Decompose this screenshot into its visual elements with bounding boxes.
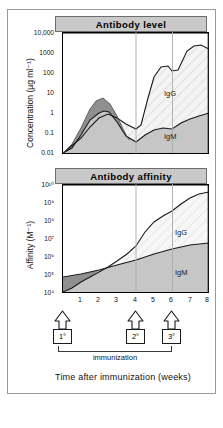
antibody-affinity-y-axis-label: Affinity (M⁻¹) — [25, 197, 35, 293]
immunization-secondary-text: 2° — [132, 332, 139, 341]
xtick-week-4: 4 — [130, 296, 140, 304]
ytick-level-0.01: 0.01 — [16, 149, 54, 156]
xticks-affinity — [63, 292, 208, 293]
ytick-affinity-1e5: 10⁵ — [16, 271, 54, 278]
ytick-affinity-1e7: 10⁷ — [16, 235, 54, 242]
antibody-response-figure: Antibody level Concentration (µg ml⁻¹) 1… — [0, 0, 223, 428]
figure-frame: Antibody level Concentration (µg ml⁻¹) 1… — [7, 9, 216, 394]
xtick-week-7: 7 — [185, 296, 195, 304]
igg-affinity-series-label: IgG — [175, 228, 187, 237]
ytick-level-100: 100 — [16, 69, 54, 76]
up-arrow-icon — [162, 310, 181, 330]
xtick-week-1: 1 — [75, 296, 85, 304]
antibody-level-y-axis-label: Concentration (µg ml⁻¹) — [25, 43, 35, 163]
ytick-level-10: 10 — [16, 89, 54, 96]
up-arrow-icon — [126, 310, 145, 330]
ytick-level-1: 1 — [16, 109, 54, 116]
immunization-label-tertiary: 3° — [162, 329, 181, 344]
xtick-week-5: 5 — [148, 296, 158, 304]
antibody-affinity-title: Antibody affinity — [55, 168, 207, 184]
immunization-primary-text: 1° — [59, 332, 66, 341]
immunization-tertiary-text: 3° — [168, 332, 175, 341]
ytick-affinity-1e6: 10⁶ — [16, 253, 54, 260]
up-arrow-icon — [53, 310, 72, 330]
ytick-affinity-1e4: 10⁴ — [16, 289, 54, 296]
ytick-affinity-1e8: 10⁸ — [16, 217, 54, 224]
ytick-affinity-1e10: 10¹⁰ — [16, 181, 54, 188]
antibody-affinity-plot-area: IgG IgM — [62, 184, 208, 293]
ytick-level-1000: 1000 — [16, 49, 54, 56]
ytick-level-0.1: 0.1 — [16, 129, 54, 136]
immunization-bracket-label: immunization — [58, 353, 172, 362]
ytick-level-10000: 10,000 — [16, 29, 54, 36]
immunization-bracket — [58, 346, 172, 352]
xtick-week-2: 2 — [93, 296, 103, 304]
antibody-level-svg — [63, 32, 209, 154]
igg-level-series-label: IgG — [164, 89, 176, 98]
immunization-label-secondary: 2° — [126, 329, 145, 344]
xtick-week-3: 3 — [111, 296, 121, 304]
xticks-level — [63, 153, 208, 154]
igm-level-series-label: IgM — [164, 132, 177, 141]
ytick-affinity-1e9: 10⁹ — [16, 199, 54, 206]
xtick-week-8: 8 — [202, 296, 212, 304]
antibody-level-plot-area: IgG IgM — [62, 32, 208, 154]
immunization-label-primary: 1° — [53, 329, 72, 344]
igm-affinity-series-label: IgM — [175, 268, 188, 277]
x-axis-title: Time after immunization (weeks) — [38, 372, 208, 382]
antibody-level-title: Antibody level — [55, 16, 207, 32]
xtick-week-6: 6 — [166, 296, 176, 304]
